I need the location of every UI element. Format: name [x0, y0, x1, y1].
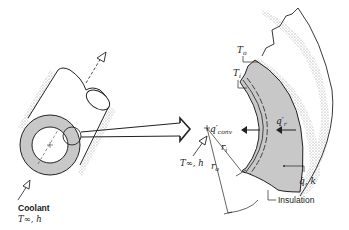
- flow-arrow-head: [97, 52, 106, 62]
- big-hollow-arrow-head: [180, 118, 190, 141]
- qdot-k-label: q̇, k: [299, 176, 316, 186]
- insulation-label: Insulation: [278, 195, 315, 205]
- qdot-k-point: [283, 165, 285, 167]
- ro-arc: [228, 200, 258, 213]
- coolant-arrow-head: [23, 180, 30, 189]
- shell-section-view: To Ti q′r q′conv T∞, h ri ro q̇, k Ins: [180, 8, 333, 214]
- To-label: To: [237, 45, 247, 56]
- ro-label: ro: [211, 161, 219, 172]
- Tinf-h-label: T∞, h: [180, 158, 204, 168]
- coolant-props: T∞, h: [18, 214, 42, 224]
- qconv-arrow-head: [241, 126, 247, 134]
- coolant-arrow-line: [18, 186, 27, 200]
- Tinf-arrow-line: [193, 142, 203, 156]
- tube-outer-stipple-bottom: [78, 107, 116, 176]
- coolant-label: Coolant: [18, 203, 50, 213]
- insulation-leader: [268, 190, 276, 200]
- flow-arrow-line: [86, 58, 101, 83]
- zoom-line-top: [81, 123, 180, 132]
- Tinf-arrow-head: [199, 136, 207, 145]
- qconv-label: q′conv: [210, 124, 233, 135]
- heat-transfer-diagram: Coolant T∞, h To Ti q′r q′conv: [0, 0, 349, 230]
- Ti-label: Ti: [233, 68, 241, 79]
- ri-label: ri: [221, 142, 227, 153]
- tube-view: Coolant T∞, h: [18, 52, 116, 224]
- shell-gray-region: [240, 60, 303, 192]
